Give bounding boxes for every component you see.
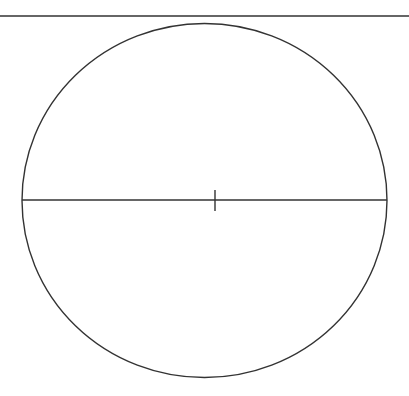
circle-diagram: [0, 0, 409, 396]
